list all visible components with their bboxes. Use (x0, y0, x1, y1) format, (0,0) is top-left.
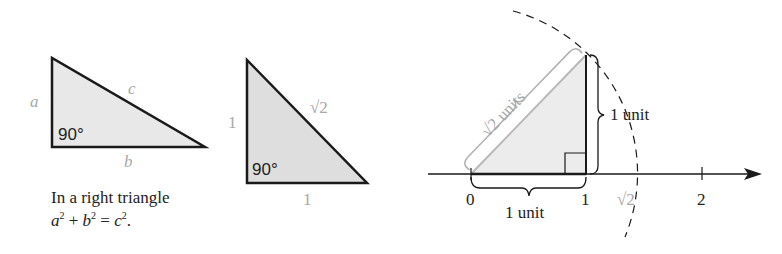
side-a-label: a (30, 93, 39, 110)
eq-plus: + (65, 211, 83, 230)
leg-vertical-label: 1 (228, 114, 237, 131)
tick-label-2: 2 (697, 191, 706, 208)
eq-period: . (127, 211, 131, 230)
vertical-brace-label: 1 unit (610, 106, 649, 123)
horizontal-brace (471, 177, 586, 196)
vertical-brace (590, 55, 604, 174)
eq-equals: = (96, 211, 114, 230)
tick-label-1: 1 (581, 191, 590, 208)
tick-label-0: 0 (466, 191, 475, 208)
eq-c: c (114, 211, 122, 230)
leg-horizontal-label: 1 (303, 191, 312, 208)
pythagorean-equation: a2 + b2 = c2. (51, 212, 131, 229)
tick-label-sqrt2: √2 (617, 191, 635, 208)
angle-90-label: 90° (58, 126, 84, 143)
angle-90-label-unit: 90° (252, 161, 278, 178)
side-b-label: b (124, 153, 133, 170)
hypotenuse-c-label: c (128, 80, 136, 97)
horizontal-brace-label: 1 unit (505, 204, 544, 221)
eq-b: b (83, 211, 92, 230)
caption-line-1: In a right triangle (51, 189, 170, 206)
eq-a: a (51, 211, 60, 230)
hypotenuse-sqrt2-label: √2 (310, 99, 328, 116)
